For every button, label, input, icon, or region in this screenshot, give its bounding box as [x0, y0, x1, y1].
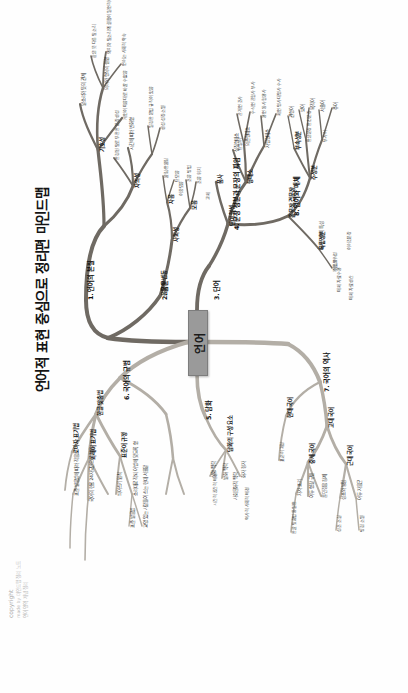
leaf-label: 사회문화적 맥락	[232, 472, 238, 500]
leaf-label: 성조와 방점	[340, 480, 346, 500]
sub-label: 매체 언어의 특성	[318, 221, 324, 250]
leaf-label: 매체 자료 수용	[336, 267, 342, 292]
leaf-label: 말소리와 뜻의 관계	[80, 73, 86, 106]
sub-label: 중세 국어	[308, 443, 316, 464]
leaf-label: 시간적 공간적 배경	[212, 473, 218, 506]
leaf-label: 용언 동사 형용사	[261, 89, 267, 118]
sub-label: 한글 맞춤법	[96, 390, 104, 416]
leaf-label: 언어는 사회적 약속	[121, 33, 127, 66]
sub-label: 자의성	[133, 174, 141, 188]
leaf-label: 안은문장 안긴문장	[306, 110, 312, 142]
sub-label: 음운의 변동	[160, 270, 168, 296]
leaf-label: 표준어 제정	[279, 442, 285, 462]
leaf-label: 이두 향찰 구결	[308, 473, 314, 498]
leaf-label: 관형어	[288, 107, 294, 118]
branch-label-5: 5. 담화	[204, 400, 213, 420]
sub-label: 현대 국어	[286, 397, 294, 418]
sub-label: 모음	[190, 200, 198, 210]
leaf-label: 단일어	[237, 139, 243, 150]
leaf-label: 차자 표기	[296, 480, 302, 496]
leaf-label: 매체 자료 생산	[348, 275, 354, 300]
leaf-label: 자립형태소	[264, 129, 270, 148]
leaf-label: 부사어	[322, 131, 328, 142]
sub-label: 주성분	[310, 166, 318, 180]
leaf-label: 조음 방법	[186, 166, 192, 182]
leaf-label: 일정한 문법 규칙이 있음	[148, 87, 154, 128]
leaf-label: 수식언 관형사 부사	[250, 81, 256, 114]
leaf-label: 화자 청자	[240, 462, 246, 478]
sub-label: 사회성	[172, 228, 180, 242]
leaf-label: 띄어쓰기 원칙	[116, 472, 122, 496]
sub-label: 담화의 구성 요소	[226, 415, 234, 452]
leaf-label: 생성·성장·소멸	[160, 105, 166, 130]
leaf-label: 시간에 따라 변화함	[128, 117, 134, 150]
leaf-label: 의미와 말소리의 결합이 필연적이지 않음	[106, 0, 112, 54]
leaf-label: 주어	[332, 102, 338, 110]
leaf-label: 관계언 조사	[237, 96, 243, 116]
leaf-label: 발화 맥락	[222, 464, 228, 480]
leaf-label: 목적어	[309, 99, 315, 110]
leaf-label: 의미와 형식의 결합	[103, 57, 109, 90]
branch-label-3: 3. 단어	[212, 280, 221, 300]
leaf-label: 교체	[205, 192, 211, 200]
sub-label: 로마자 표기법	[72, 424, 80, 454]
sub-label: 고대 국어	[327, 407, 335, 428]
sub-label: 품사	[216, 174, 224, 184]
branch-label-7: 7. 국어의 역사	[322, 353, 331, 392]
leaf-label: 개인이 마음대로 바꿀 수 없음	[122, 70, 128, 120]
leaf-label: 표준 발음법	[129, 508, 135, 528]
leaf-label: 한글 맞춤법 통일안	[291, 501, 297, 534]
leaf-label: 교양 있는 사람들이 쓰는 현대 서울말	[142, 465, 148, 528]
sub-label: 기호성	[98, 138, 106, 152]
sub-label: 부속성분	[294, 131, 302, 150]
leaf-label: 의존형태소	[244, 127, 250, 146]
sub-label: 표준어 규정	[120, 432, 128, 458]
leaf-label: 체언 명사 대명사 수사	[276, 78, 282, 116]
sub-label: 자음	[167, 194, 175, 204]
leaf-label: 한정된 말로 무한한 문장 생성	[114, 110, 120, 160]
branch-label-6: 6. 국어의 규범	[122, 361, 131, 400]
leaf-label: 역사적 사회적 배경	[244, 487, 250, 520]
branch-label-1: 1. 언어의 본질	[86, 261, 95, 300]
sub-label: 홑문장 겹문장	[288, 188, 296, 218]
sub-label: 형태소	[246, 170, 254, 184]
sub-label: 단어 형성	[228, 205, 236, 226]
leaf-label: 울림/안울림	[163, 158, 169, 178]
leaf-label: 같은 뜻 다른 말소리	[91, 24, 97, 58]
leaf-label: 이어진문장	[346, 231, 352, 250]
leaf-label: 훈민정음 창제	[321, 474, 327, 498]
sub-label: 근대 국어	[346, 445, 354, 466]
leaf-label: 표준 발음법에 따라 적음	[73, 454, 79, 496]
center-node-label: 언어	[190, 333, 206, 354]
leaf-label: 어두 자음군	[356, 480, 362, 500]
leaf-label: 이중모음	[178, 181, 184, 196]
mindmap-canvas: 언어 1. 언어의 본질 2. 음운 3. 단어 4. 문장 성분과 문장의 짜…	[0, 0, 408, 693]
leaf-label: 서술어	[319, 101, 325, 112]
leaf-label: 방점 소멸	[359, 516, 365, 532]
leaf-label: 국어의 현용 24자모만으로 적음	[88, 447, 94, 502]
leaf-label: 성조 소실	[336, 516, 342, 532]
leaf-label: 소리대로 적되 어법에 맞도록 함	[132, 442, 138, 496]
leaf-label: 조음 위치	[196, 168, 202, 184]
center-node[interactable]: 언어	[188, 310, 208, 376]
leaf-label: 보어	[299, 104, 305, 112]
